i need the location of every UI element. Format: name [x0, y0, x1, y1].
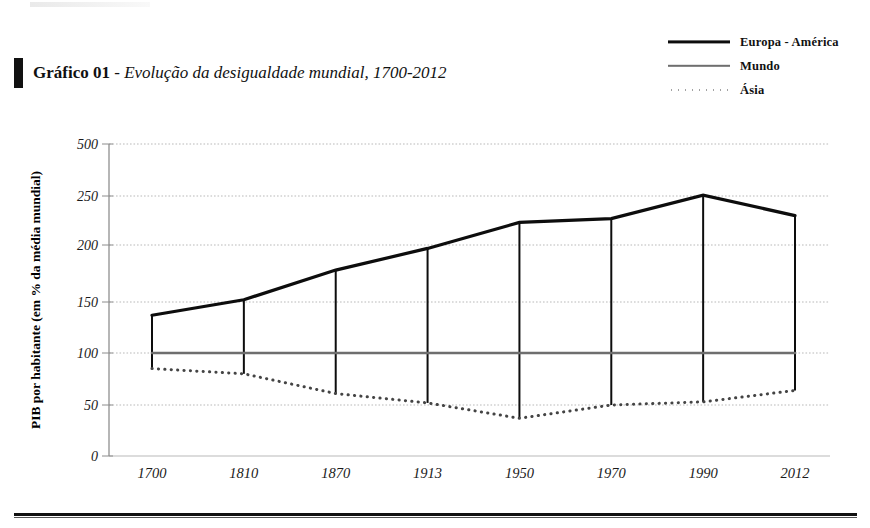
ytick-label-200: 200: [77, 238, 98, 253]
xtick-label-1990: 1990: [689, 465, 719, 481]
ytick-label-150: 150: [77, 295, 98, 310]
chart-area: 050100150200250500PIB por habitante (em …: [0, 0, 870, 500]
ytick-label-0: 0: [91, 449, 98, 464]
y-axis-title: PIB por habitante (em % da média mundial…: [28, 171, 43, 429]
ytick-label-500: 500: [77, 137, 98, 152]
ytick-label-100: 100: [77, 346, 98, 361]
xtick-label-1950: 1950: [505, 465, 535, 481]
ytick-label-250: 250: [77, 189, 98, 204]
page-bottom-rule: [14, 513, 857, 516]
chart-svg: 050100150200250500PIB por habitante (em …: [0, 0, 870, 500]
series-line-asia: [152, 369, 795, 419]
xtick-label-1913: 1913: [413, 465, 442, 481]
ytick-label-50: 50: [84, 398, 98, 413]
xtick-label-1970: 1970: [597, 465, 627, 481]
page-bottom-rule-secondary: [14, 517, 857, 518]
xtick-label-1810: 1810: [229, 465, 259, 481]
xtick-label-1870: 1870: [321, 465, 351, 481]
series-line-europa-america: [152, 195, 795, 315]
xtick-label-1700: 1700: [138, 465, 168, 481]
xtick-label-2012: 2012: [781, 465, 810, 481]
